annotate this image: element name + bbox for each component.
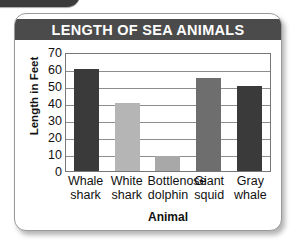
page-title: LENGTH OF SEA ANIMALS [52, 22, 245, 38]
chart-card: LENGTH OF SEA ANIMALS Length in Feet 706… [14, 13, 282, 231]
chart-title-bar: LENGTH OF SEA ANIMALS [15, 19, 281, 40]
plot-area [65, 53, 271, 172]
x-axis-tick-label: Whale shark [65, 174, 106, 202]
bar-chart: Length in Feet 706050403020100 Whale sha… [15, 40, 282, 231]
y-axis-tick-label: 40 [48, 98, 62, 111]
bar [74, 69, 99, 171]
y-axis-tick-label: 20 [48, 132, 62, 145]
y-axis-tick-label: 30 [48, 115, 62, 128]
bar [115, 103, 140, 171]
bar [196, 78, 221, 172]
x-axis-tick-label: White shark [106, 174, 147, 202]
x-axis-title: Animal [65, 210, 271, 224]
y-axis-tick-label: 50 [48, 81, 62, 94]
x-axis-tick-label: Gray whale [230, 174, 271, 202]
y-axis-tick-label: 60 [48, 64, 62, 77]
x-axis-tick-labels: Whale sharkWhite sharkBottlenose dolphin… [65, 174, 271, 202]
bar [237, 86, 262, 171]
corner-badge-decoration [0, 0, 80, 7]
y-axis-tick-label: 70 [48, 47, 62, 60]
x-axis-tick-label: Bottlenose dolphin [147, 174, 188, 202]
y-axis-tick-labels: 706050403020100 [36, 53, 62, 172]
y-axis-tick-label: 0 [55, 166, 62, 179]
bar-series [66, 54, 270, 171]
bar [155, 156, 180, 171]
x-axis-tick-label: Giant squid [189, 174, 230, 202]
y-axis-tick-label: 10 [48, 149, 62, 162]
